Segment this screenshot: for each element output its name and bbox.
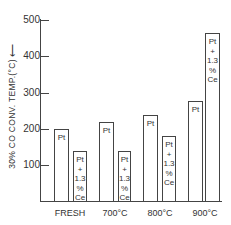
bar-label: % <box>165 169 172 179</box>
bar-label: + <box>78 165 83 175</box>
y-tick <box>40 165 49 166</box>
y-tick-label: 500 <box>12 14 40 25</box>
y-tick <box>40 56 49 57</box>
y-tick-label: 300 <box>12 87 40 98</box>
y-tick-label: 200 <box>12 123 40 134</box>
bar-label: % <box>76 184 83 194</box>
bar-label: % <box>121 184 128 194</box>
bar-900-pt: Pt <box>188 101 203 202</box>
y-tick <box>40 129 49 130</box>
bar-label: Pt <box>165 140 173 150</box>
bar-fresh-pt-ce: Pt + 1.3 % Ce <box>73 151 87 202</box>
bar-label: 1.3 <box>74 174 85 184</box>
x-category-label: FRESH <box>45 208 95 218</box>
y-axis <box>40 19 41 202</box>
bar-chart: 30% CO CONV. TEMP.(°C) ⟵ 500 400 300 200… <box>0 0 231 225</box>
bar-label: Ce <box>119 193 129 203</box>
bar-label: + <box>122 165 127 175</box>
bar-label: Pt <box>76 155 84 165</box>
bar-fresh-pt: Pt <box>54 129 69 202</box>
bar-label: 1.3 <box>163 159 174 169</box>
bar-label: Pt <box>121 155 129 165</box>
bar-label: Pt <box>209 37 217 47</box>
bar-label: Ce <box>75 193 85 203</box>
bar-700-pt: Pt <box>99 122 114 202</box>
bar-label: Pt <box>192 105 200 115</box>
bar-label: 1.3 <box>119 174 130 184</box>
bar-label: Pt <box>58 133 66 143</box>
bar-label: 1.3 <box>207 56 218 66</box>
x-category-label: 900°C <box>180 208 230 218</box>
bar-label: + <box>210 47 215 57</box>
bar-900-pt-ce: Pt + 1.3 % Ce <box>205 33 220 202</box>
bar-label: % <box>209 66 216 76</box>
bar-label: Ce <box>164 178 174 188</box>
bar-800-pt: Pt <box>143 115 158 202</box>
x-category-label: 700°C <box>90 208 140 218</box>
y-tick-label: 400 <box>12 50 40 61</box>
bar-label: + <box>167 150 172 160</box>
bar-label: Pt <box>147 119 155 129</box>
bar-label: Pt <box>103 126 111 136</box>
bar-700-pt-ce: Pt + 1.3 % Ce <box>118 151 131 202</box>
x-category-label: 800°C <box>135 208 185 218</box>
y-tick <box>40 20 49 21</box>
y-tick-label: 100 <box>12 159 40 170</box>
bar-800-pt-ce: Pt + 1.3 % Ce <box>162 136 176 202</box>
y-tick <box>40 93 49 94</box>
bar-label: Ce <box>207 75 217 85</box>
